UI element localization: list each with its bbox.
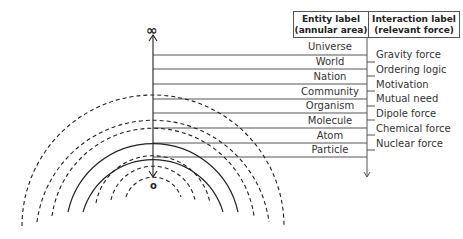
entity-header-title: Entity label: [302, 14, 360, 25]
entity-header-sub: (annular area): [295, 25, 368, 36]
entity-organism: Organism: [293, 100, 367, 112]
entity-particle: Particle: [293, 144, 367, 156]
entity-world: World: [293, 56, 367, 68]
entity-community: Community: [293, 86, 367, 98]
force-ticks: [367, 62, 375, 150]
interaction-header-sub: (relevant force): [374, 25, 454, 36]
force-motivation: Motivation: [376, 79, 429, 91]
entity-nation: Nation: [293, 71, 367, 83]
entity-header: Entity label (annular area): [294, 12, 369, 37]
interaction-header: Interaction label (relevant force): [369, 12, 459, 37]
table-header: Entity label (annular area) Interaction …: [293, 11, 460, 38]
force-dipole: Dipole force: [376, 108, 436, 120]
entity-atom: Atom: [293, 130, 367, 142]
infinity-symbol: ∞: [146, 22, 158, 38]
entity-universe: Universe: [293, 41, 367, 53]
force-chemical: Chemical force: [376, 123, 451, 135]
force-nuclear: Nuclear force: [376, 138, 443, 150]
force-mutual-need: Mutual need: [376, 93, 438, 105]
zero-symbol: o: [150, 180, 157, 191]
interaction-header-title: Interaction label: [372, 14, 456, 25]
force-ordering-logic: Ordering logic: [376, 64, 447, 76]
force-gravity: Gravity force: [376, 49, 441, 61]
entity-molecule: Molecule: [293, 115, 367, 127]
